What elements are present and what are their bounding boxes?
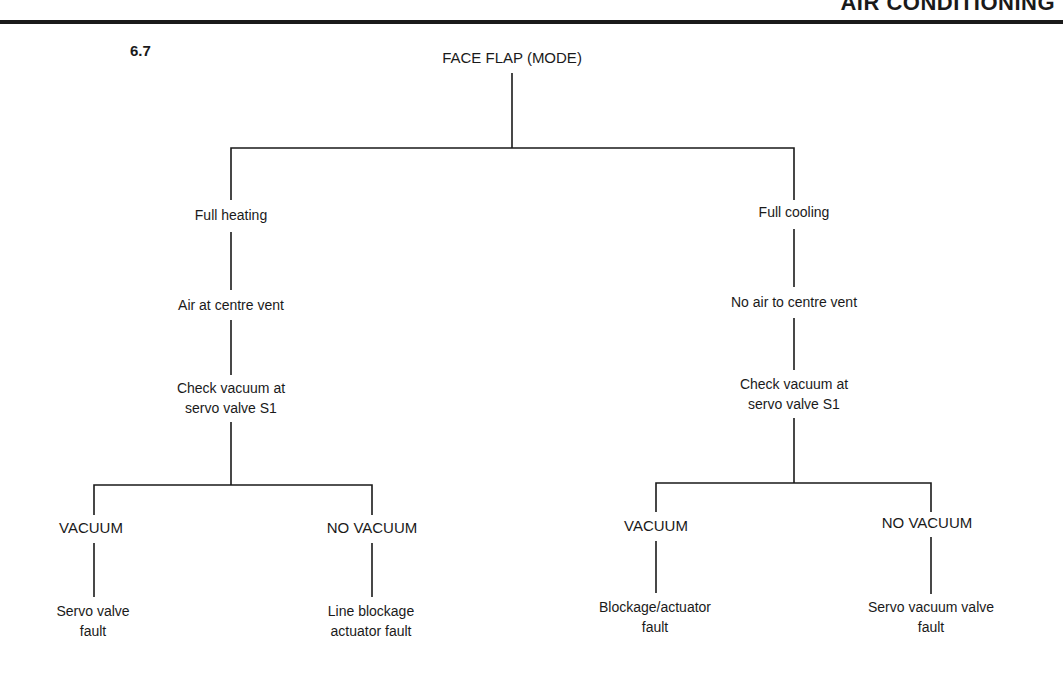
right-symptom-node: No air to centre vent bbox=[731, 292, 857, 312]
right-condition-node: Full cooling bbox=[759, 202, 830, 222]
right-no-vacuum-result: Servo vacuum valve fault bbox=[868, 597, 994, 637]
left-no-vacuum-result: Line blockage actuator fault bbox=[328, 601, 414, 641]
left-vacuum-node: VACUUM bbox=[59, 518, 123, 538]
right-no-vacuum-node: NO VACUUM bbox=[882, 513, 973, 533]
result-line: Line blockage bbox=[328, 601, 414, 621]
root-node: FACE FLAP (MODE) bbox=[442, 48, 582, 68]
connector-lines bbox=[0, 0, 1063, 683]
right-check-line2: servo valve S1 bbox=[740, 394, 848, 414]
right-vacuum-node: VACUUM bbox=[624, 516, 688, 536]
result-line: actuator fault bbox=[328, 621, 414, 641]
left-check-line2: servo valve S1 bbox=[177, 398, 285, 418]
right-check-node: Check vacuum at servo valve S1 bbox=[740, 374, 848, 414]
result-line: Blockage/actuator bbox=[599, 597, 711, 617]
left-check-line1: Check vacuum at bbox=[177, 378, 285, 398]
left-no-vacuum-node: NO VACUUM bbox=[327, 518, 418, 538]
result-line: Servo valve bbox=[56, 601, 129, 621]
left-symptom-node: Air at centre vent bbox=[178, 295, 284, 315]
result-line: Servo vacuum valve bbox=[868, 597, 994, 617]
result-line: fault bbox=[56, 621, 129, 641]
left-vacuum-result: Servo valve fault bbox=[56, 601, 129, 641]
left-check-node: Check vacuum at servo valve S1 bbox=[177, 378, 285, 418]
result-line: fault bbox=[868, 617, 994, 637]
result-line: fault bbox=[599, 617, 711, 637]
right-vacuum-result: Blockage/actuator fault bbox=[599, 597, 711, 637]
left-condition-node: Full heating bbox=[195, 205, 267, 225]
right-check-line1: Check vacuum at bbox=[740, 374, 848, 394]
